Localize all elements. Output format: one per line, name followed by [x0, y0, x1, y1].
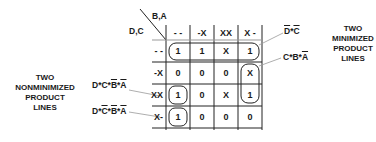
- kmap-cell: 1: [238, 84, 262, 106]
- kmap-cell: 1: [190, 40, 214, 62]
- kmap-cell: 1: [166, 106, 190, 128]
- kmap-cell: 0: [214, 62, 238, 84]
- kmap-cell: 0: [190, 84, 214, 106]
- row-header: - -: [141, 40, 165, 62]
- row-header: X-: [141, 106, 165, 128]
- kmap-cell: 0: [166, 62, 190, 84]
- kmap-cell: X: [214, 84, 238, 106]
- nonminimized-title: TWO NONMINIMIZED PRODUCT LINES: [10, 73, 80, 113]
- kmap-cell: 1: [166, 40, 190, 62]
- column-header: -X: [190, 25, 214, 40]
- kmap-cell: 1: [166, 84, 190, 106]
- kmap-cell: 0: [190, 62, 214, 84]
- kmap-cell: X: [238, 62, 262, 84]
- term-dbar-cbar: D*C: [284, 26, 300, 36]
- column-axis-label: B,A: [152, 11, 167, 21]
- row-header: -X: [141, 62, 165, 84]
- column-header: XX: [214, 25, 238, 40]
- row-axis-label: D,C: [129, 26, 144, 36]
- kmap-cell: X: [214, 40, 238, 62]
- kmap-cell: 0: [238, 106, 262, 128]
- column-header: - -: [166, 25, 190, 40]
- column-header: X -: [238, 25, 262, 40]
- kmap-cell: 0: [190, 106, 214, 128]
- term-d-c-bbar-abar: D*C*B*A: [92, 80, 127, 90]
- kmap-cell: 0: [214, 106, 238, 128]
- row-header: XX: [141, 84, 165, 106]
- term-d-cbar-bbar-abar: D*C*B*A: [92, 106, 127, 116]
- term-c-b-abar: C*B*A: [283, 52, 308, 62]
- minimized-title: TWO MINIMIZED PRODUCT LINES: [330, 24, 376, 64]
- kmap-cell: 1: [238, 40, 262, 62]
